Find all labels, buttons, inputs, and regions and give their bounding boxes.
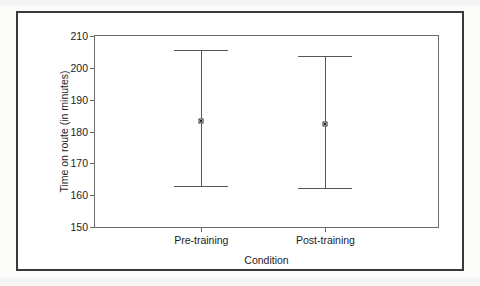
y-tick-label: 160 — [70, 190, 88, 201]
y-axis-title: Time on route (in minutes) — [58, 35, 70, 228]
y-tick-mark — [90, 100, 95, 101]
figure-canvas: Time on route (in minutes) Condition 210… — [0, 0, 480, 286]
y-tick-label: 200 — [70, 63, 88, 74]
y-tick-label: 150 — [70, 222, 88, 233]
errorbar-cap-upper — [174, 50, 228, 51]
data-point-center-post-training — [324, 123, 326, 125]
y-tick-mark — [90, 163, 95, 164]
errorbar-cap-lower — [174, 186, 228, 187]
errorbar-cap-lower — [298, 188, 352, 189]
y-tick-mark — [90, 68, 95, 69]
scan-artifact — [0, 0, 480, 6]
figure-outer-border: Time on route (in minutes) Condition 210… — [16, 11, 464, 271]
errorbar-cap-upper — [298, 56, 352, 57]
y-tick-mark — [90, 195, 95, 196]
y-tick-mark — [90, 132, 95, 133]
x-tick-label-post-training: Post-training — [296, 235, 355, 246]
y-tick-label: 170 — [70, 158, 88, 169]
x-axis-title: Condition — [94, 254, 439, 266]
y-tick-label: 180 — [70, 126, 88, 137]
data-point-center-pre-training — [200, 120, 202, 122]
y-axis-title-container: Time on route (in minutes) — [44, 35, 58, 228]
x-tick-mark-post-training — [325, 227, 326, 232]
y-tick-mark — [90, 36, 95, 37]
y-tick-mark — [90, 227, 95, 228]
x-tick-label-pre-training: Pre-training — [174, 235, 228, 246]
y-tick-label: 210 — [70, 31, 88, 42]
scan-artifact — [0, 278, 480, 286]
x-tick-mark-pre-training — [201, 227, 202, 232]
plot-area: 210 200 190 180 170 160 — [94, 35, 439, 228]
y-tick-label: 190 — [70, 94, 88, 105]
